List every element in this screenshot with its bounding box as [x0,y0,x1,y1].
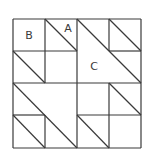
quilt-block-diagram: BAC [0,0,144,159]
piece-label-b: B [25,29,33,42]
grid-segment [77,115,109,148]
grid-segment [13,51,45,83]
grid-segment [13,115,45,148]
grid-segment [109,83,141,115]
piece-label-c: C [90,60,98,73]
grid-segment [45,19,77,51]
piece-label-a: A [64,22,72,35]
grid-segment [109,19,141,51]
